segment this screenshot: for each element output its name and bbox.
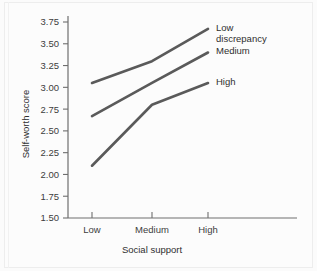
y-tick-label: 2.00: [41, 169, 60, 180]
y-tick-label: 1.75: [41, 191, 60, 202]
x-tick-label: Medium: [135, 224, 169, 235]
y-tick-label: 3.00: [41, 82, 60, 93]
y-axis-tick-group: [63, 22, 68, 218]
series-label: Medium: [216, 45, 250, 56]
x-axis-tick-labels: LowMediumHigh: [83, 224, 217, 235]
x-axis-title: Social support: [122, 244, 183, 255]
series-line: [92, 83, 208, 166]
series-line: [92, 29, 208, 83]
series-label: High: [216, 76, 236, 87]
x-tick-label: High: [198, 224, 218, 235]
figure-container: 1.501.752.002.252.502.753.003.253.503.75…: [0, 0, 317, 271]
y-tick-label: 3.75: [41, 16, 60, 27]
series-label: Low: [216, 22, 234, 33]
x-tick-label: Low: [83, 224, 101, 235]
y-tick-label: 2.25: [41, 147, 60, 158]
y-axis-title: Self-worth score: [20, 90, 31, 159]
y-axis-tick-labels: 1.501.752.002.252.502.753.003.253.503.75: [41, 16, 60, 223]
line-chart: 1.501.752.002.252.502.753.003.253.503.75…: [0, 0, 317, 271]
y-tick-label: 2.50: [41, 125, 60, 136]
series-label-group: LowdiscrepancyMediumHigh: [216, 22, 267, 87]
y-tick-label: 3.50: [41, 38, 60, 49]
x-axis-tick-group: [92, 212, 208, 218]
y-tick-label: 2.75: [41, 104, 60, 115]
y-tick-label: 3.25: [41, 60, 60, 71]
series-label-continuation: discrepancy: [216, 33, 267, 44]
y-tick-label: 1.50: [41, 212, 60, 223]
series-line-group: [92, 29, 208, 166]
